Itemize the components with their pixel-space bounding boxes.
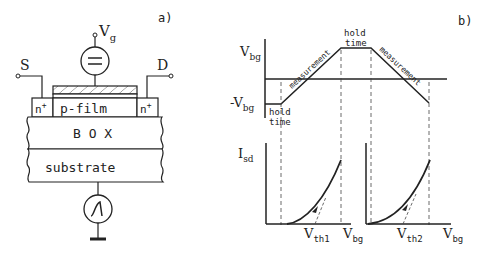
diagram-canvas: a) Vg S D n+ p-film n+ B O X <box>0 0 481 257</box>
vbg-waveform-plot: Vbg -Vbg hold time hold time measurement… <box>230 28 447 225</box>
substrate-label: substrate <box>45 160 116 175</box>
hold-time-label-2b: time <box>345 38 367 48</box>
isd-curve-2 <box>368 160 430 224</box>
dc-source-icon <box>81 47 109 75</box>
isd-curve-1 <box>287 160 341 224</box>
box-label: B O X <box>73 126 112 141</box>
source-label: S <box>20 57 30 73</box>
hold-time-label-1: hold <box>269 107 291 117</box>
measurement-label-2: measurement <box>378 45 423 88</box>
gate-electrode <box>53 86 137 94</box>
panel-a-label: a) <box>158 11 172 25</box>
p-film-label: p-film <box>60 101 107 116</box>
gate-voltage-label: Vg <box>98 22 117 43</box>
isd-vbg-plot-2: Vth2 Vbg <box>366 143 463 244</box>
vbg-axis-label-2: Vbg <box>442 226 463 244</box>
vbg-negative-label: -Vbg <box>230 95 255 113</box>
source-terminal-icon <box>16 74 20 78</box>
hold-time-label-2: hold <box>344 28 366 38</box>
vbg-positive-label: Vbg <box>239 44 261 62</box>
pulse-source-icon <box>84 195 112 223</box>
gate-terminal-icon <box>93 33 97 37</box>
vbg-axis-label-1: Vbg <box>342 226 363 244</box>
drain-label: D <box>157 57 168 73</box>
hold-time-label-1b: time <box>269 117 291 127</box>
vth1-label: Vth1 <box>303 226 330 244</box>
measurement-label-1: measurement <box>287 48 332 91</box>
panel-a: a) Vg S D n+ p-film n+ B O X <box>16 11 173 239</box>
panel-b: b) Vbg -Vbg hold time hold time measurem… <box>230 14 472 244</box>
drain-terminal-icon <box>169 74 173 78</box>
panel-b-label: b) <box>458 14 472 28</box>
isd-label: Isd <box>238 146 254 164</box>
isd-vbg-plot-1: Isd Vth1 Vbg <box>238 143 363 244</box>
vth2-label: Vth2 <box>396 226 423 244</box>
